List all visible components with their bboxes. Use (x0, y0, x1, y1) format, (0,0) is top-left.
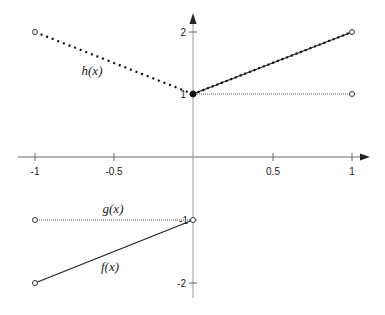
y-tick-label: 1 (180, 89, 186, 100)
h-right-segment (193, 32, 352, 94)
y-tick-label: 2 (180, 27, 186, 38)
x-tick-label: 0.5 (266, 166, 280, 177)
y-axis-arrow-icon (190, 13, 197, 24)
h-left-segment (35, 32, 193, 94)
x-tick-label: -1 (31, 166, 40, 177)
closed-point (190, 91, 196, 97)
function-plot: -1 -0.5 0.5 1 2 1 -1 -2 h(x) g(x) f(x) (0, 0, 385, 315)
x-axis-arrow-icon (360, 154, 370, 161)
open-point (33, 218, 38, 223)
x-tick-label: 1 (349, 166, 355, 177)
f-label: f(x) (101, 259, 119, 274)
h-label: h(x) (82, 63, 103, 78)
g-label: g(x) (103, 201, 124, 216)
open-point (350, 92, 355, 97)
y-tick-label: -2 (177, 278, 186, 289)
open-point (350, 30, 355, 35)
open-point (191, 218, 196, 223)
open-point (33, 30, 38, 35)
open-point (33, 281, 38, 286)
x-tick-label: -0.5 (105, 166, 123, 177)
axes: -1 -0.5 0.5 1 2 1 -1 -2 (18, 13, 370, 298)
